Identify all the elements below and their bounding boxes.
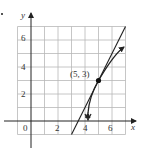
curve-down-arrow-icon (85, 114, 91, 120)
tangent-line-diagram: x y 0 2 4 6 2 4 6 (5, 3) (0, 0, 145, 150)
point-label: (5, 3) (70, 69, 90, 79)
y-tick-4: 4 (21, 62, 26, 72)
grid (18, 27, 126, 135)
x-tick-6: 6 (108, 123, 113, 133)
x-tick-2: 2 (55, 123, 60, 133)
y-axis-label: y (20, 10, 25, 20)
stray-mark (1, 13, 3, 15)
y-tick-2: 2 (21, 89, 26, 99)
y-tick-6: 6 (21, 33, 26, 43)
x-tick-0: 0 (23, 123, 28, 133)
point-5-3 (96, 78, 101, 83)
x-axis-label: x (130, 122, 135, 132)
curve (88, 47, 124, 113)
x-tick-4: 4 (83, 123, 88, 133)
